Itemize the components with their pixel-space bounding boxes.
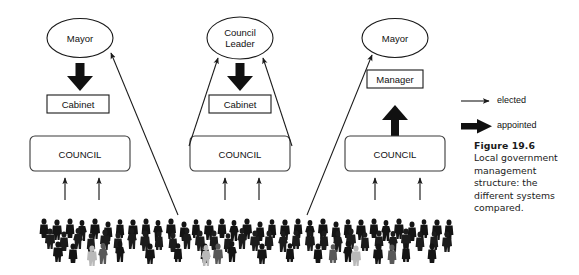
figure-caption: Figure 19.6 Local government management … bbox=[474, 140, 577, 214]
node-manager-label: Manager bbox=[376, 74, 414, 85]
diagram-canvas: Mayor Cabinet COUNCIL Council Leader bbox=[0, 0, 579, 275]
node-council-1-label: COUNCIL bbox=[59, 149, 102, 160]
appointed-arrow-council-manager bbox=[382, 105, 408, 136]
column-council-leader: Council Leader Cabinet COUNCIL bbox=[189, 17, 292, 200]
figure-caption-body: Local government management structure: t… bbox=[474, 152, 577, 214]
legend-label-elected: elected bbox=[497, 95, 526, 105]
figure-caption-title: Figure 19.6 bbox=[474, 140, 577, 152]
appointed-arrow-mayor-cabinet bbox=[67, 63, 93, 91]
node-cabinet-1-label: Cabinet bbox=[62, 99, 95, 110]
elected-arrow-crowd-to-mayor-2 bbox=[307, 55, 372, 215]
crowd-of-people bbox=[40, 218, 454, 266]
legend-label-appointed: appointed bbox=[497, 120, 537, 130]
node-cabinet-2-label: Cabinet bbox=[224, 99, 257, 110]
appointed-arrow-leader-cabinet bbox=[227, 63, 253, 91]
column-mayor-manager: Mayor Manager COUNCIL bbox=[345, 19, 445, 201]
node-council-3-label: COUNCIL bbox=[374, 149, 417, 160]
node-mayor-2-label: Mayor bbox=[382, 33, 408, 44]
elected-arrow-crowd-to-mayor-1 bbox=[111, 53, 178, 215]
figure-19-6: Mayor Cabinet COUNCIL Council Leader bbox=[0, 0, 579, 275]
node-mayor-1-label: Mayor bbox=[67, 33, 93, 44]
node-council-leader-label-line1: Council bbox=[224, 27, 256, 38]
column-mayor-cabinet: Mayor Cabinet COUNCIL bbox=[30, 19, 130, 201]
node-council-2-label: COUNCIL bbox=[219, 149, 262, 160]
node-council-leader-label-line2: Leader bbox=[225, 38, 255, 49]
legend-thick-arrow-icon bbox=[461, 119, 492, 134]
